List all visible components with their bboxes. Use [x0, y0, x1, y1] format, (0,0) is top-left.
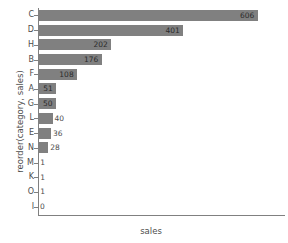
bar-value-label: 36 [53, 128, 63, 139]
y-axis-title: reorder(category, sales) [13, 0, 27, 243]
bar-value-label: 1 [40, 157, 45, 168]
bar-value-label: 202 [93, 39, 107, 50]
bar-value-label: 606 [240, 10, 254, 21]
bar-value-label: 1 [40, 186, 45, 197]
bar [38, 113, 53, 124]
bar [38, 10, 258, 21]
y-axis-tick [34, 177, 38, 178]
bar-value-label: 51 [43, 83, 53, 94]
bar-value-label: 108 [59, 69, 73, 80]
bar [38, 142, 48, 153]
bar-value-label: 0 [40, 201, 45, 212]
bar-chart: CDHBFAGLENMKOI reorder(category, sales) … [0, 0, 288, 243]
bar-value-label: 176 [84, 54, 98, 65]
bar [38, 128, 51, 139]
y-axis-tick [34, 192, 38, 193]
bar-value-label: 28 [50, 142, 60, 153]
y-axis-tick [34, 207, 38, 208]
x-axis-line [38, 215, 285, 216]
x-axis-title: sales [14, 226, 288, 236]
bar-value-label: 50 [43, 98, 53, 109]
bar [38, 25, 183, 36]
bar-value-label: 40 [55, 113, 65, 124]
y-axis-tick [34, 163, 38, 164]
bar-value-label: 1 [40, 172, 45, 183]
bar-value-label: 401 [166, 25, 180, 36]
